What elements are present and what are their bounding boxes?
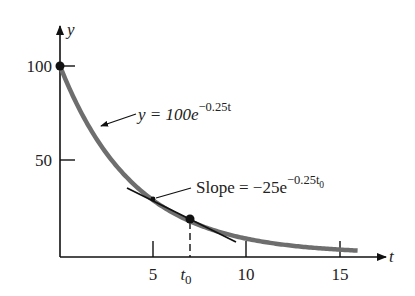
x-tick-label-10: 10 (238, 265, 255, 284)
slope-annotation-leader (156, 188, 191, 198)
decay-curve (60, 66, 358, 251)
y-tick-label-100: 100 (27, 57, 53, 76)
x-axis-label: t (389, 247, 395, 266)
y-tick-label-50: 50 (35, 151, 52, 170)
slope-label: Slope = −25e−0.25t0 (196, 173, 324, 197)
tangent-point (186, 215, 195, 224)
x-tick-label-5: 5 (149, 265, 158, 284)
initial-point (56, 62, 65, 71)
curve-annotation-arrow (101, 114, 136, 126)
curve-equation-label: y = 100e−0.25t (136, 100, 231, 124)
slope-annotation-dot (151, 197, 156, 202)
exponential-decay-chart: y t 100 50 5 t0 10 15 y = 100e−0.25t Slo… (0, 0, 415, 296)
x-tick-label-t0: t0 (180, 265, 191, 287)
y-axis-label: y (65, 20, 75, 39)
x-tick-label-15: 15 (332, 265, 349, 284)
